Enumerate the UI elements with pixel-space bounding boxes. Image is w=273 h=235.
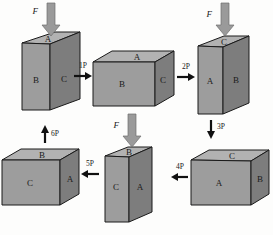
step-6-label: 6P	[51, 129, 59, 138]
figure-canvas: A B C F 1P A B C 2P	[0, 0, 273, 235]
step-6-arrow	[41, 125, 49, 143]
box-1: A B C	[22, 32, 80, 110]
box-1-side-label: C	[61, 74, 67, 84]
box-2: A B C	[93, 51, 174, 106]
step-2-arrow	[177, 73, 195, 81]
box-6-top-label: B	[39, 150, 45, 160]
box-2-front-label: B	[119, 79, 125, 89]
cube-rotation-figure: A B C F 1P A B C 2P	[0, 0, 273, 235]
box-1-front-label: B	[33, 75, 39, 85]
down-arrow-icon	[42, 3, 60, 36]
box-2-top-label: A	[134, 52, 141, 62]
box-5: B C A	[105, 147, 152, 222]
box-6-side-label: A	[67, 174, 74, 184]
step-4-label: 4P	[176, 162, 184, 171]
force-label-box-3: F	[206, 9, 213, 19]
box-4-front-label: A	[216, 178, 223, 188]
step-1-label: 1P	[79, 61, 87, 70]
box-5-top-label: B	[126, 147, 132, 157]
box-4-side-label: B	[257, 174, 263, 184]
box-2-side-label: C	[160, 75, 166, 85]
force-arrow-box-1	[42, 3, 60, 36]
down-arrow-icon	[123, 114, 141, 147]
step-3-arrow	[207, 120, 215, 139]
box-1-side-face	[50, 32, 80, 110]
step-5-arrow	[81, 170, 99, 178]
force-label-box-5: F	[113, 120, 120, 130]
box-6: B C A	[2, 149, 79, 205]
force-arrow-box-5	[123, 114, 141, 147]
step-4-arrow	[171, 173, 188, 181]
force-label-box-1: F	[32, 6, 39, 16]
box-3: C A B	[198, 36, 249, 114]
step-5-label: 5P	[86, 159, 94, 168]
box-5-front-label: C	[113, 182, 119, 192]
step-2-label: 2P	[182, 62, 190, 71]
box-3-top-label: C	[221, 37, 227, 47]
step-3-label: 3P	[217, 122, 225, 131]
box-4-top-label: C	[229, 151, 235, 161]
box-3-side-label: B	[233, 75, 239, 85]
box-3-front-label: A	[207, 76, 214, 86]
force-arrow-box-3	[216, 3, 234, 36]
down-arrow-icon	[216, 3, 234, 36]
box-6-front-label: C	[27, 178, 33, 188]
box-4: C A B	[191, 150, 269, 205]
box-5-side-label: A	[137, 182, 144, 192]
